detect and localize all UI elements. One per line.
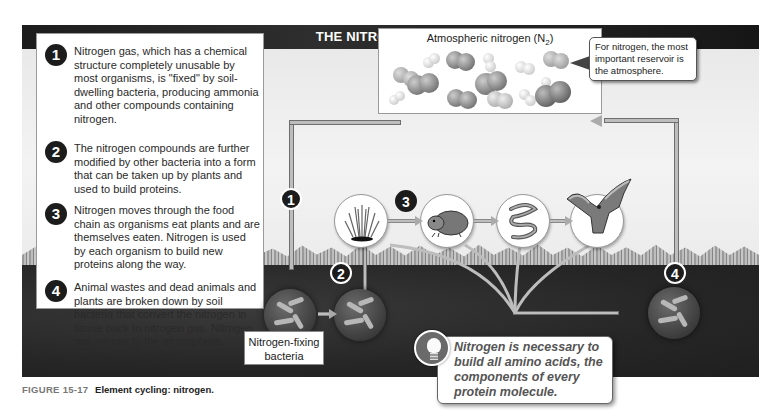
figure-caption-title: Element cycling: nitrogen. xyxy=(95,384,214,395)
amino-acid-fact-callout: Nitrogen is necessary to build all amino… xyxy=(437,336,613,404)
step-number: 2 xyxy=(45,141,67,163)
nitrogen-fixing-bacteria-label: Nitrogen-fixing bacteria xyxy=(244,331,324,365)
decomposer-bacteria xyxy=(648,287,700,339)
marker-4: 4 xyxy=(664,262,686,284)
arrow-grass-to-gopher-icon xyxy=(388,219,416,223)
flow-line-atm-top-left xyxy=(289,120,401,125)
arrow-into-atmosphere-icon xyxy=(590,115,602,127)
step-text: Nitrogen moves through the food chain as… xyxy=(74,204,260,272)
arrow-snake-to-hawk-icon xyxy=(550,219,566,223)
atmosphere-label: Atmospheric nitrogen (N2) xyxy=(379,32,601,47)
arrow-gopher-to-snake-icon xyxy=(474,219,492,223)
grass-icon xyxy=(335,195,389,249)
reservoir-callout: For nitrogen, the most important reservo… xyxy=(589,37,697,81)
lightbulb-icon xyxy=(414,330,450,366)
atmosphere-box: Atmospheric nitrogen (N2) xyxy=(378,28,602,114)
step-text: Nitrogen gas, which has a chemical struc… xyxy=(74,45,260,127)
snake-icon xyxy=(497,195,551,249)
organism-grass xyxy=(334,194,388,248)
flow-line-return-vertical xyxy=(674,118,679,266)
step-number: 4 xyxy=(45,280,67,302)
hawk-icon xyxy=(557,177,637,247)
figure-number: FIGURE 15-17 xyxy=(22,384,88,395)
marker-1: 1 xyxy=(280,188,302,210)
figure-caption: FIGURE 15-17 Element cycling: nitrogen. xyxy=(22,384,214,395)
step-text: The nitrogen compounds are further modif… xyxy=(74,142,260,196)
step-number: 3 xyxy=(45,203,67,225)
callout-pointer-icon xyxy=(570,56,590,70)
organism-snake xyxy=(496,194,550,248)
gopher-icon xyxy=(421,195,475,249)
step-number: 1 xyxy=(45,44,67,66)
marker-3: 3 xyxy=(395,190,417,212)
nitrogen-fixing-bacteria-2 xyxy=(334,289,386,341)
arrow-bacteria-1-to-2-icon xyxy=(318,312,330,316)
step-text: Animal wastes and dead animals and plant… xyxy=(74,281,260,349)
flow-line-return-top xyxy=(604,118,679,123)
steps-panel: 1 Nitrogen gas, which has a chemical str… xyxy=(36,33,264,309)
marker-2: 2 xyxy=(330,262,352,284)
organism-gopher xyxy=(420,194,474,248)
organism-hawk xyxy=(570,194,624,248)
